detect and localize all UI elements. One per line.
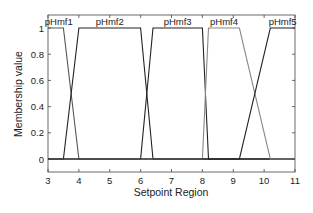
label-phmf5: pHmf5 xyxy=(269,16,297,27)
y-tick-label: 1 xyxy=(39,23,44,34)
x-tick-label: 4 xyxy=(76,175,81,186)
y-tick-label: 0.8 xyxy=(31,49,44,60)
label-phmf2: pHmf2 xyxy=(96,16,124,27)
x-tick-label: 3 xyxy=(45,175,50,186)
plot-area xyxy=(48,15,295,172)
label-phmf3: pHmf3 xyxy=(164,16,192,27)
x-tick-label: 5 xyxy=(107,175,112,186)
y-tick-label: 0.2 xyxy=(31,127,44,138)
y-axis-title: Membership value xyxy=(12,51,24,137)
y-tick-label: 0.4 xyxy=(31,101,44,112)
y-tick-label: 0 xyxy=(39,154,44,165)
x-axis-title: Setpoint Region xyxy=(134,186,209,198)
x-tick-label: 11 xyxy=(290,175,300,186)
y-tick-label: 0.6 xyxy=(31,75,44,86)
label-phmf4: pHmf4 xyxy=(210,16,238,27)
x-tick-label: 8 xyxy=(200,175,205,186)
x-tick-label: 10 xyxy=(259,175,270,186)
label-phmf1: pHmf1 xyxy=(45,16,73,27)
x-tick-label: 7 xyxy=(169,175,174,186)
membership-function-chart: 34567891011 00.20.40.60.81 pHmf1pHmf2pHm… xyxy=(0,0,313,213)
x-tick-label: 6 xyxy=(138,175,143,186)
x-tick-label: 9 xyxy=(231,175,236,186)
